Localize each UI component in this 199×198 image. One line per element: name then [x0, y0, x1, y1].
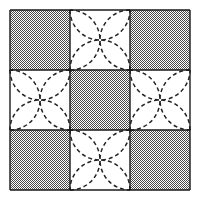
quilt-cell-0-1 — [70, 10, 130, 70]
quilt-cell-2-0 — [10, 130, 70, 190]
quilt-cell-0-2 — [130, 10, 190, 70]
quilt-cell-1-2 — [130, 70, 190, 130]
quilt-cell-0-0 — [10, 10, 70, 70]
quilt-cell-1-0 — [10, 70, 70, 130]
quilt-cell-2-1 — [70, 130, 130, 190]
quilt-diagram — [0, 0, 199, 198]
quilt-cell-2-2 — [130, 130, 190, 190]
quilt-cell-1-1 — [70, 70, 130, 130]
quilt-figure — [0, 0, 199, 198]
